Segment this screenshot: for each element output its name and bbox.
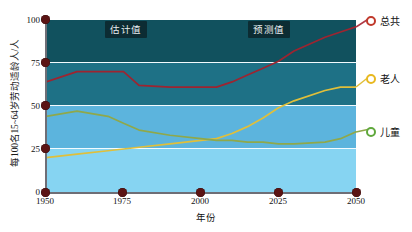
legend-marker-elderly-icon: [366, 74, 376, 84]
legend-label-total: 总共: [380, 13, 400, 28]
chart-figure: 每100名15~64岁劳动适龄人/人 估计值 预测值 100 75 50 25 …: [0, 0, 412, 232]
x-tick-1975: 1975: [101, 196, 143, 206]
legend-label-elderly: 老人: [380, 71, 400, 86]
x-axis-title: 年份: [0, 210, 412, 224]
y-tick-100: 100: [12, 15, 40, 25]
legend-item-total[interactable]: 总共: [366, 13, 400, 28]
x-tick-2050: 2050: [335, 196, 377, 206]
series-lines: [46, 20, 356, 192]
annotation-estimated: 估计值: [105, 21, 147, 38]
y-tick-25: 25: [12, 144, 40, 154]
y-marker-75: [41, 58, 50, 67]
x-tick-2025: 2025: [257, 196, 299, 206]
y-marker-25: [41, 144, 50, 153]
line-total: [46, 27, 356, 87]
line-children: [46, 111, 356, 144]
y-tick-50: 50: [12, 101, 40, 111]
legend-marker-total-icon: [366, 16, 376, 26]
legend-item-children[interactable]: 儿童: [366, 124, 400, 139]
y-marker-50: [41, 101, 50, 110]
legend-item-elderly[interactable]: 老人: [366, 71, 400, 86]
x-tick-2000: 2000: [179, 196, 221, 206]
y-marker-100: [41, 15, 50, 24]
annotation-projected: 预测值: [248, 21, 290, 38]
legend-label-children: 儿童: [380, 124, 400, 139]
x-tick-1950: 1950: [24, 196, 66, 206]
legend-marker-children-icon: [366, 127, 376, 137]
plot-area: [46, 20, 356, 192]
y-tick-75: 75: [12, 58, 40, 68]
line-elderly: [46, 87, 356, 158]
